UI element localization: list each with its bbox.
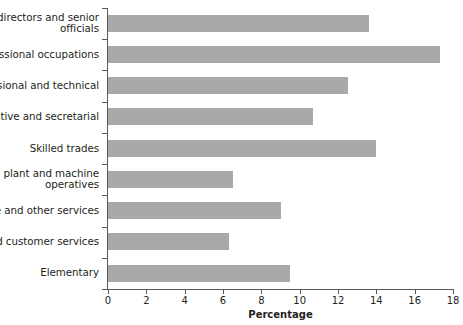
x-tick [300, 289, 301, 294]
x-axis-line [107, 289, 453, 290]
x-tick-label: 18 [438, 295, 463, 306]
x-tick-label: 4 [170, 295, 200, 306]
category-label: Administrative and secretarial [0, 111, 99, 123]
bars-group [108, 8, 453, 289]
x-tick [223, 289, 224, 294]
x-tick-label: 8 [246, 295, 276, 306]
category-label: Sales and customer services [0, 236, 99, 248]
bar [108, 77, 348, 94]
bar [108, 202, 281, 219]
bar-row [108, 195, 453, 226]
category-label: Elementary [0, 268, 99, 280]
bar-row [108, 102, 453, 133]
x-tick-label: 6 [208, 295, 238, 306]
bar-row [108, 227, 453, 258]
bar [108, 171, 233, 188]
bar [108, 108, 313, 125]
bar [108, 140, 376, 157]
category-label: Process plant and machine operatives [0, 168, 99, 191]
x-tick [415, 289, 416, 294]
bar-row [108, 70, 453, 101]
bar-row [108, 164, 453, 195]
x-tick [261, 289, 262, 294]
category-label: Professional occupations [0, 49, 99, 61]
x-tick [146, 289, 147, 294]
x-tick-label: 12 [323, 295, 353, 306]
x-axis-title: Percentage [108, 309, 453, 320]
category-label: Caring, leisure and other services [0, 205, 99, 217]
horizontal-bar-chart: Managers, directors and senior officials… [0, 0, 463, 325]
x-tick-label: 16 [400, 295, 430, 306]
x-tick [185, 289, 186, 294]
x-tick [108, 289, 109, 294]
x-tick-label: 0 [93, 295, 123, 306]
x-tick-label: 14 [361, 295, 391, 306]
bar-row [108, 258, 453, 289]
bar [108, 265, 290, 282]
bar [108, 15, 369, 32]
bar-row [108, 39, 453, 70]
x-tick-label: 2 [131, 295, 161, 306]
category-label: Associate professional and technical [0, 80, 99, 92]
category-label: Managers, directors and senior officials [0, 12, 99, 35]
bar [108, 233, 229, 250]
bar-row [108, 8, 453, 39]
x-tick [338, 289, 339, 294]
x-tick [453, 289, 454, 294]
x-tick [376, 289, 377, 294]
x-tick-label: 10 [285, 295, 315, 306]
bar-row [108, 133, 453, 164]
bar [108, 46, 440, 63]
category-label: Skilled trades [0, 143, 99, 155]
